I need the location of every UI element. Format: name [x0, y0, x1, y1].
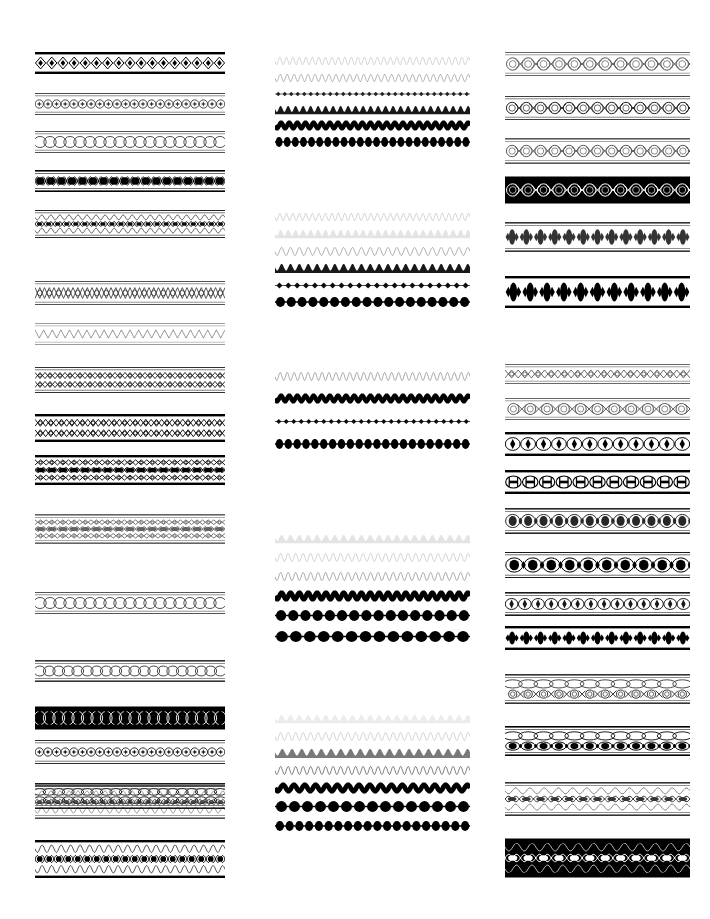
ornament-diamond-row-3: [275, 416, 470, 427]
specimen-sheet: [0, 0, 710, 919]
ornament-oval-dot-grey-band: [505, 508, 690, 534]
ornament-lozenge-cluster-heavy-band: [505, 276, 690, 308]
ornament-triple-wave-dot-band: [35, 210, 225, 238]
ornament-lozenge-triple-heavy-band: [35, 455, 225, 485]
ornament-circle-chain-wide-band: [505, 398, 690, 420]
ornament-wave-lozenge-solid-band: [35, 840, 225, 878]
ornament-wave-thin-2: [275, 246, 470, 257]
ornament-star-dot-light-band: [35, 93, 225, 115]
ornament-wave-solid-4: [275, 590, 470, 602]
ornament-wave-faint-4: [275, 534, 470, 544]
ornament-lozenge-row-5: [275, 800, 470, 813]
ornament-circle-chain-grey-band: [505, 138, 690, 164]
ornament-circle-chain-inverse-band: [505, 176, 690, 204]
ornament-oval-chain-plain-band: [35, 592, 225, 614]
ornament-diamond-eye-band: [505, 432, 690, 456]
ornament-circle-chain-grey-band: [35, 660, 225, 682]
ornament-wave-thin-5: [275, 748, 470, 759]
ornament-circle-cross-chain-band: [505, 96, 690, 120]
ornament-diamond-row-small-1: [275, 89, 470, 99]
ornament-lozenge-row-heavy-4: [275, 630, 470, 643]
ornament-wave-medium-5: [275, 765, 470, 776]
column-right: [505, 0, 690, 919]
ornament-circle-dot-triple-band: [505, 726, 690, 756]
ornament-wave-hairline-5: [275, 731, 470, 742]
ornament-wave-hairline-4: [275, 552, 470, 563]
column-middle: [275, 0, 470, 919]
ornament-zigzag-faint-band: [35, 323, 225, 345]
ornament-dot-lozenge-solid-band: [35, 170, 225, 192]
ornament-wave-solid-3: [275, 393, 470, 404]
ornament-star-circle-band: [35, 740, 225, 764]
ornament-lattice-triple-band: [35, 367, 225, 393]
ornament-lozenge-cluster-grey-band: [505, 222, 690, 252]
ornament-wave-solid-1: [275, 120, 470, 131]
ornament-dot-row-3: [275, 438, 470, 450]
ornament-diamond-chain-heavy-band: [35, 52, 225, 74]
ornament-lozenge-row-heavy-2: [275, 296, 470, 308]
column-left: [35, 0, 225, 919]
ornament-dot-cluster-chain-band: [505, 626, 690, 650]
ornament-wave-lozenge-grey-band: [35, 785, 225, 819]
ornament-dot-row-heavy-1: [275, 136, 470, 148]
ornament-oval-chain-triple-grey-band: [505, 674, 690, 704]
ornament-oval-chain-open-band: [35, 131, 225, 153]
ornament-circle-chain-inverse-band: [35, 706, 225, 730]
ornament-circle-chain-open-band: [505, 52, 690, 76]
ornament-wave-thin-1: [275, 73, 470, 83]
ornament-lattice-crosshatch-band: [35, 281, 225, 305]
ornament-lozenge-row-4: [275, 609, 470, 622]
ornament-lozenge-grey-band: [35, 514, 225, 544]
ornament-wave-thin-4: [275, 571, 470, 582]
ornament-barbell-chain-band: [505, 470, 690, 494]
ornament-diamond-row-2: [275, 280, 470, 291]
ornament-oval-dot-large-band: [505, 552, 690, 578]
ornament-wave-oval-inverse-band: [505, 838, 690, 878]
ornament-wave-faint-5: [275, 714, 470, 724]
ornament-wave-hairline-1: [275, 56, 470, 66]
ornament-wave-filled-2: [275, 263, 470, 274]
ornament-wave-filled-1: [275, 105, 470, 115]
ornament-wave-solid-5: [275, 782, 470, 794]
ornament-wave-faint-2: [275, 229, 470, 239]
ornament-diamond-lattice-heavy-band: [35, 414, 225, 442]
ornament-small-diamond-chain-band: [505, 592, 690, 616]
ornament-cross-lattice-thin-band: [505, 364, 690, 384]
ornament-lozenge-row-small-5: [275, 820, 470, 832]
ornament-wave-hairline-2: [275, 212, 470, 222]
ornament-wave-thin-3: [275, 371, 470, 382]
ornament-wave-oval-grey-band: [505, 782, 690, 816]
